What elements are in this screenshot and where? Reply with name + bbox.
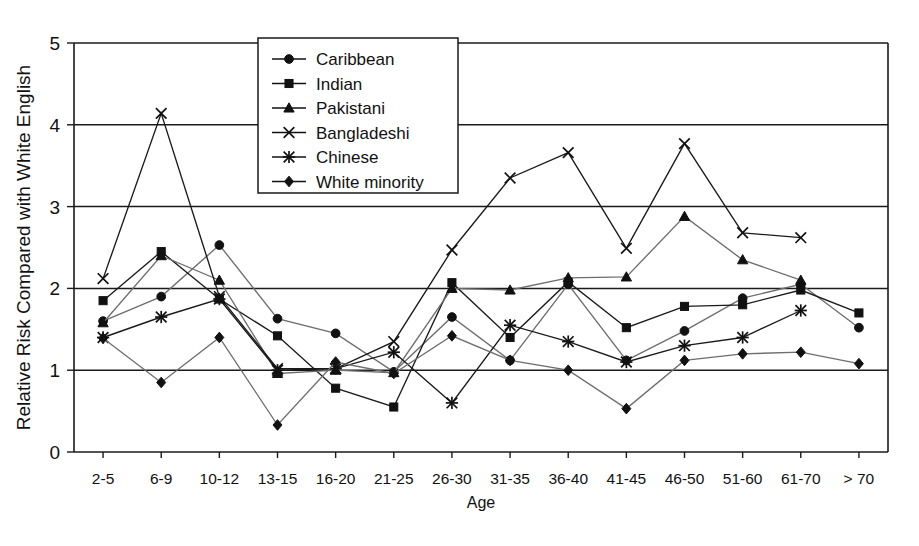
x-axis-title: Age: [467, 494, 496, 511]
x-tick-label-9: 41-45: [607, 470, 647, 487]
legend-label-5: White minority: [316, 173, 424, 192]
y-tick-label-4: 4: [49, 115, 60, 136]
chart-figure: 0123452-56-910-1213-1516-2021-2526-3031-…: [0, 0, 919, 546]
marker-square-1-9: [622, 324, 630, 332]
legend-label-4: Chinese: [316, 148, 378, 167]
x-tick-label-11: 51-60: [723, 470, 763, 487]
legend-label-1: Indian: [316, 75, 362, 94]
marker-circle-0-10: [680, 327, 689, 336]
marker-square-legend-1: [285, 79, 293, 87]
marker-square-1-5: [390, 403, 398, 411]
x-tick-label-3: 13-15: [258, 470, 298, 487]
x-tick-label-4: 16-20: [316, 470, 356, 487]
marker-circle-0-3: [273, 314, 282, 323]
marker-circle-0-6: [448, 313, 457, 322]
legend-label-0: Caribbean: [316, 50, 394, 69]
x-tick-label-2: 10-12: [200, 470, 240, 487]
x-tick-label-8: 36-40: [548, 470, 588, 487]
marker-square-1-10: [680, 302, 688, 310]
x-tick-label-7: 31-35: [490, 470, 530, 487]
y-tick-label-5: 5: [49, 33, 60, 54]
x-tick-label-0: 2-5: [92, 470, 114, 487]
line-chart: 0123452-56-910-1213-1516-2021-2526-3031-…: [0, 0, 919, 546]
legend-label-3: Bangladeshi: [316, 124, 410, 143]
marker-circle-legend-0: [285, 55, 294, 64]
marker-square-1-11: [739, 301, 747, 309]
marker-circle-0-1: [157, 292, 166, 301]
marker-square-1-12: [797, 286, 805, 294]
x-tick-label-1: 6-9: [150, 470, 172, 487]
plot-area-background: [74, 43, 888, 452]
x-tick-label-10: 46-50: [665, 470, 705, 487]
x-tick-label-12: 61-70: [781, 470, 821, 487]
x-tick-label-6: 26-30: [432, 470, 472, 487]
x-tick-label-13: > 70: [844, 470, 875, 487]
marker-circle-0-2: [215, 241, 224, 250]
marker-square-1-7: [506, 333, 514, 341]
y-tick-label-3: 3: [49, 197, 60, 218]
marker-circle-0-4: [331, 329, 340, 338]
y-tick-label-1: 1: [49, 360, 60, 381]
marker-square-1-4: [332, 384, 340, 392]
marker-circle-0-13: [855, 323, 864, 332]
legend-label-2: Pakistani: [316, 99, 385, 118]
y-tick-label-0: 0: [49, 442, 60, 463]
marker-square-1-13: [855, 309, 863, 317]
marker-square-1-0: [99, 297, 107, 305]
y-tick-label-2: 2: [49, 278, 60, 299]
marker-square-1-3: [273, 332, 281, 340]
y-axis-title: Relative Risk Compared with White Englis…: [13, 65, 34, 430]
x-tick-label-5: 21-25: [374, 470, 414, 487]
legend: CaribbeanIndianPakistaniBangladeshiChine…: [258, 38, 458, 193]
